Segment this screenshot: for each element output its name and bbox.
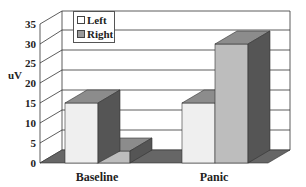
y-tick: 15 [25,97,37,109]
y-axis: 0 5 10 15 20 25 30 35 uV [8,18,37,169]
y-axis-label: uV [8,69,22,81]
legend-label: Left [87,14,107,26]
y-tick: 25 [25,57,37,69]
y-tick: 30 [25,38,37,50]
y-tick: 10 [25,117,37,129]
y-tick: 20 [25,77,37,89]
bar-baseline-left [65,90,120,163]
legend-swatch-icon [77,16,85,24]
x-category-label: Panic [200,170,229,184]
x-category-label: Baseline [76,170,119,184]
y-tick: 0 [31,157,37,169]
y-tick: 5 [31,137,37,149]
chart-legend: Left Right [73,11,115,43]
y-tick: 35 [25,18,37,30]
legend-item-left: Left [77,14,107,26]
bar-panic-right [215,31,270,163]
legend-swatch-icon [77,30,85,38]
bar-chart: 0 5 10 15 20 25 30 35 uV Baseline Panic [0,0,306,187]
legend-label: Right [87,28,113,40]
side-wall [40,11,62,163]
legend-item-right: Right [77,28,113,40]
